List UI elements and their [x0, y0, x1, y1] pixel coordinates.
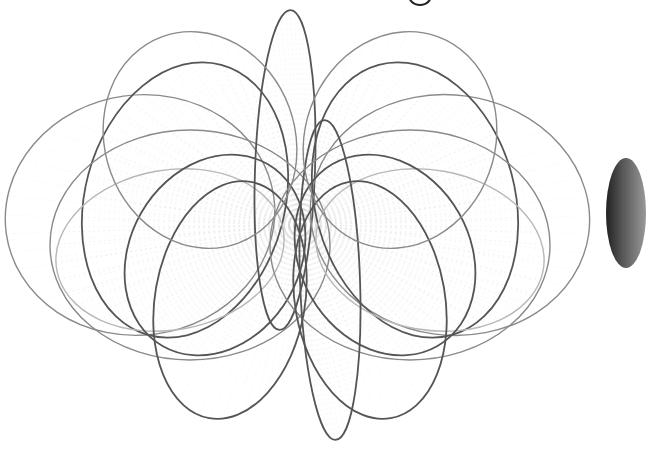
field-loop — [303, 151, 557, 349]
partial-dark-ellipse — [606, 158, 646, 268]
field-loop — [43, 151, 297, 349]
